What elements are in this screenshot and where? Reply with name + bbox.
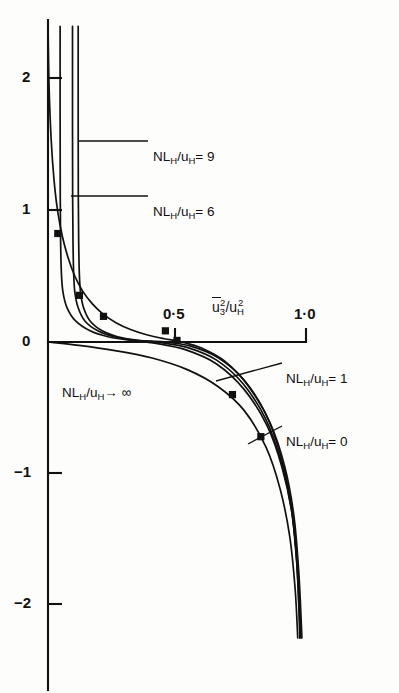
label-nlinf: NLH/uH→ ∞: [62, 383, 131, 402]
y-tick-label-1: 1: [22, 200, 30, 218]
label-nl1-mid: /u: [310, 371, 321, 386]
label-nl6-mid: /u: [177, 204, 188, 219]
label-nl0-tail: = 0: [328, 434, 347, 449]
x-tick-label-1-0: 1·0: [294, 305, 316, 323]
x-tick-label-0-5: 0·5: [163, 305, 185, 323]
label-nlinf-prefix: NL: [62, 385, 79, 400]
y-tick-label-2: 2: [22, 68, 30, 86]
x-axis-label-sup2: 2: [238, 297, 243, 308]
label-nl9: NLH/uH= 9: [153, 147, 214, 166]
label-nl0-prefix: NL: [286, 434, 303, 449]
y-tick-label-0: 0: [22, 332, 30, 350]
data-point-marker-0: [54, 230, 61, 237]
label-nl9-prefix: NL: [153, 149, 170, 164]
label-nl6: NLH/uH= 6: [153, 202, 214, 221]
label-nlinf-mid: /u: [86, 385, 97, 400]
chart-svg: [0, 0, 399, 693]
x-axis-label-base2: u: [229, 299, 237, 315]
label-nl1-tail: = 1: [328, 371, 347, 386]
label-nl6-prefix: NL: [153, 204, 170, 219]
label-nl6-tail: = 6: [195, 204, 214, 219]
y-tick-label-minus1: −1: [14, 463, 31, 481]
data-point-group: [54, 230, 264, 440]
data-point-marker-4: [173, 337, 180, 344]
label-nl1-prefix: NL: [286, 371, 303, 386]
y-tick-label-minus2: −2: [14, 594, 31, 612]
label-nl1: NLH/uH= 1: [286, 369, 347, 388]
label-nl0-mid: /u: [310, 434, 321, 449]
data-point-marker-1: [76, 292, 83, 299]
data-point-marker-5: [229, 391, 236, 398]
label-nl9-mid: /u: [177, 149, 188, 164]
data-point-marker-3: [162, 327, 169, 334]
curve-series-2: [60, 26, 301, 637]
label-nl0: NLH/uH= 0: [286, 432, 347, 451]
figure-panel: 2 1 0 −1 −2 0·5 1·0 u32/uH2 NLH/uH= 9NLH…: [0, 0, 399, 693]
data-point-marker-2: [100, 313, 107, 320]
x-axis-label: u32/uH2: [212, 297, 243, 317]
x-axis-label-base: u: [212, 299, 220, 315]
label-nl9-tail: = 9: [195, 149, 214, 164]
curve-series-0: [78, 26, 300, 637]
label-nlinf-tail: → ∞: [104, 385, 131, 400]
x-axis-ticks: [175, 328, 306, 342]
